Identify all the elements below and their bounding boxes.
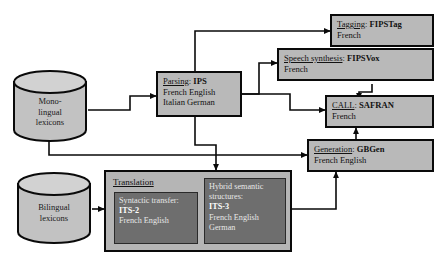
datastore-label-line: Bilingual — [16, 202, 92, 213]
box-system-name: FIPSVox — [347, 53, 380, 63]
box-languages: French English — [163, 87, 236, 98]
box-title: Generation — [314, 144, 352, 154]
datastore-label-line: lexicons — [16, 213, 92, 224]
diagram-canvas: Mono- lingual lexicons Bilingual lexicon… — [0, 0, 438, 263]
box-heading: CALL: SAFRAN — [332, 100, 428, 111]
subbox-label: structures: — [209, 192, 281, 202]
process-group-translation[interactable]: Translation Syntactic transfer: ITS-2 Fr… — [104, 170, 292, 252]
box-heading: Tagging: FIPSTag — [337, 19, 428, 30]
box-system-name: SAFRAN — [359, 100, 394, 110]
datastore-monolingual-lexicons: Mono- lingual lexicons — [12, 70, 88, 142]
subbox-label: Hybrid semantic — [209, 182, 281, 192]
datastore-label-line: lexicons — [12, 117, 88, 128]
wire-parsing-translation — [195, 117, 216, 170]
group-title-translation: Translation — [113, 177, 154, 188]
box-languages: Italian German — [163, 97, 236, 108]
datastore-bilingual-lexicons: Bilingual lexicons — [16, 172, 92, 244]
box-system-name: GBGen — [357, 144, 385, 154]
process-box-parsing[interactable]: Parsing: IPS French English Italian Germ… — [156, 71, 242, 117]
wire-parsing-call — [242, 94, 325, 110]
subbox-system-name: ITS-2 — [119, 206, 193, 216]
box-title: Speech synthesis — [284, 53, 342, 63]
box-languages: French — [337, 30, 428, 41]
box-title: Tagging — [337, 19, 365, 29]
subbox-languages: French English — [119, 216, 193, 226]
subbox-system-name: ITS-3 — [209, 202, 281, 212]
box-heading: Parsing: IPS — [163, 76, 236, 87]
process-box-tagging[interactable]: Tagging: FIPSTag French — [330, 14, 434, 47]
subbox-syntactic-transfer[interactable]: Syntactic transfer: ITS-2 French English — [114, 192, 198, 244]
box-system-name: IPS — [193, 76, 206, 86]
datastore-label-line: Mono- — [12, 96, 88, 107]
subbox-hybrid-semantic-structures[interactable]: Hybrid semantic structures: ITS-3 French… — [204, 178, 286, 244]
subbox-languages: German — [209, 223, 281, 233]
process-box-generation[interactable]: Generation: GBGen French English — [307, 139, 434, 172]
wire-translation-generation — [292, 172, 336, 209]
process-box-speech-synthesis[interactable]: Speech synthesis: FIPSVox French — [277, 48, 434, 81]
subbox-label: Syntactic transfer: — [119, 196, 193, 206]
box-heading: Generation: GBGen — [314, 144, 428, 155]
subbox-languages: French English — [209, 213, 281, 223]
datastore-label-line: lingual — [12, 107, 88, 118]
box-languages: French English — [314, 155, 428, 166]
box-languages: French — [284, 64, 428, 75]
box-heading: Speech synthesis: FIPSVox — [284, 53, 428, 64]
box-title: Parsing — [163, 76, 189, 86]
wire-monolingual-parsing — [88, 96, 156, 110]
wire-parsing-speech — [242, 63, 277, 94]
box-system-name: FIPSTag — [370, 19, 402, 29]
wire-monolingual-generation — [49, 140, 307, 155]
box-title: CALL — [332, 100, 354, 110]
box-languages: French — [332, 111, 428, 122]
process-box-call[interactable]: CALL: SAFRAN French — [325, 95, 434, 128]
